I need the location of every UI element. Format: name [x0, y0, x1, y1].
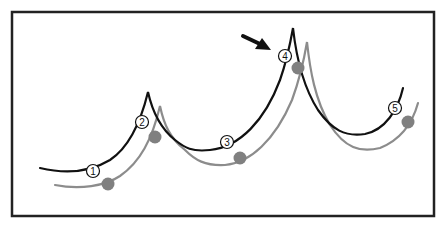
diagram-frame [12, 12, 434, 216]
marker-1: 1 [87, 165, 100, 178]
marker-5: 5 [389, 102, 402, 115]
marker-label: 4 [282, 51, 288, 62]
marker-3: 3 [221, 136, 234, 149]
grey-dot [149, 131, 162, 144]
marker-4: 4 [279, 50, 292, 63]
diagram-canvas: 1 2 3 4 5 [0, 0, 445, 228]
marker-label: 2 [139, 117, 145, 128]
grey-dot [234, 152, 247, 165]
marker-label: 1 [90, 166, 96, 177]
grey-dot [292, 62, 305, 75]
grey-dot [102, 178, 115, 191]
marker-2: 2 [136, 116, 149, 129]
marker-label: 5 [392, 103, 398, 114]
marker-label: 3 [224, 137, 230, 148]
grey-dot [402, 116, 415, 129]
